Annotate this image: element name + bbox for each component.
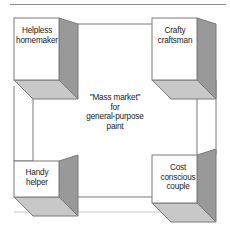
block-top-left xyxy=(14,18,78,99)
block-bottom-left-front-face xyxy=(14,161,59,197)
block-bottom-right-front-face xyxy=(152,155,197,203)
block-bottom-left xyxy=(14,155,78,216)
figure-container: Helpless homemaker Crafty craftsman Hand… xyxy=(0,0,230,236)
block-top-right-front-face xyxy=(152,18,197,80)
block-top-right xyxy=(152,18,216,99)
block-top-left-front-face xyxy=(14,18,59,80)
block-bottom-right xyxy=(152,149,216,222)
diagram-graphics xyxy=(0,0,230,236)
